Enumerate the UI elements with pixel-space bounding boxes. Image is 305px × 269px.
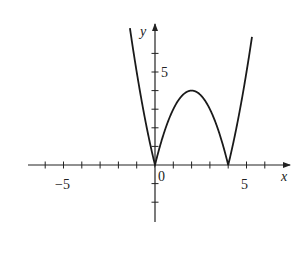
y-axis-label: y xyxy=(138,24,147,39)
y-tick-label-5: 5 xyxy=(161,65,168,80)
origin-label: 0 xyxy=(158,169,165,184)
x-tick-label-5: 5 xyxy=(241,177,248,192)
x-axis-label: x xyxy=(280,169,288,184)
curve-abs-x2-minus-4x xyxy=(130,28,252,165)
axes xyxy=(28,24,290,222)
function-graph: y x 0 −5 5 5 xyxy=(0,0,305,269)
x-tick-label-neg5: −5 xyxy=(55,177,70,192)
